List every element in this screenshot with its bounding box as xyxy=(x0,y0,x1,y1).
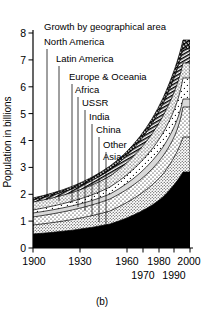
region-label-other: Other xyxy=(103,139,127,150)
y-tick-4: 4 xyxy=(20,135,26,147)
x-tick-2000: 2000 xyxy=(177,255,201,267)
x-tick-1900: 1900 xyxy=(22,255,46,267)
y-axis-title: Population in billions xyxy=(2,96,13,187)
y-tick-0: 0 xyxy=(20,242,26,254)
x-tick-labels-row1: 1900 1930 1960 1980 2000 xyxy=(22,255,201,267)
x-tick-labels-row2: 1970 1990 xyxy=(131,269,186,281)
y-tick-7: 7 xyxy=(20,54,26,66)
x-tick-1990: 1990 xyxy=(162,269,186,281)
region-label-latin-america: Latin America xyxy=(56,53,114,64)
region-label-texts: North America Latin America Europe & Oce… xyxy=(44,36,147,162)
y-tick-3: 3 xyxy=(20,161,26,173)
chart-title: Growth by geographical area xyxy=(44,21,167,32)
y-tick-8: 8 xyxy=(20,27,26,39)
region-label-india: India xyxy=(89,111,110,122)
region-label-north-america: North America xyxy=(44,36,105,47)
y-tick-5: 5 xyxy=(20,108,26,120)
x-tick-1930: 1930 xyxy=(68,255,92,267)
region-label-asia: Asia xyxy=(103,151,122,162)
figure-caption: (b) xyxy=(96,296,108,307)
figure-population-growth: Growth by geographical area North Americ… xyxy=(0,0,205,323)
y-tick-1: 1 xyxy=(20,215,26,227)
x-tick-1960: 1960 xyxy=(115,255,139,267)
region-label-africa: Africa xyxy=(75,84,100,95)
y-tick-2: 2 xyxy=(20,188,26,200)
chart-svg: Growth by geographical area North Americ… xyxy=(0,0,205,323)
region-label-europe-oceania: Europe & Oceania xyxy=(69,71,147,82)
x-axis-ticks xyxy=(33,248,190,253)
y-axis-ticks xyxy=(29,33,34,248)
y-tick-6: 6 xyxy=(20,81,26,93)
region-label-china: China xyxy=(96,124,122,135)
x-tick-1980: 1980 xyxy=(147,255,171,267)
y-tick-labels: 0 1 2 3 4 5 6 7 8 xyxy=(20,27,26,254)
x-tick-1970: 1970 xyxy=(131,269,155,281)
region-label-ussr: USSR xyxy=(82,97,109,108)
